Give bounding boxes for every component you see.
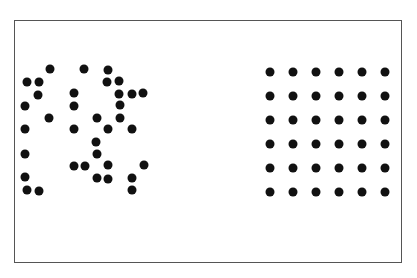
grid-dot [335, 164, 344, 173]
grid-dot [312, 164, 321, 173]
grid-dot [312, 140, 321, 149]
grid-dot [335, 68, 344, 77]
grid-dot [266, 140, 275, 149]
grid-dot [312, 92, 321, 101]
grid-dot [335, 188, 344, 197]
grid-dot [358, 188, 367, 197]
grid-dot [266, 92, 275, 101]
grid-dot [358, 92, 367, 101]
grid-dot [289, 140, 298, 149]
grid-dot [312, 68, 321, 77]
grid-dot [266, 164, 275, 173]
grid-dot [381, 116, 390, 125]
grid-dot [381, 68, 390, 77]
grid-dot [381, 164, 390, 173]
grid-dot [381, 92, 390, 101]
grid-dot [358, 140, 367, 149]
grid-dot [289, 92, 298, 101]
grid-dot [266, 68, 275, 77]
grid-dot [358, 68, 367, 77]
grid-dot [335, 92, 344, 101]
grid-dot [289, 116, 298, 125]
grid-dot [381, 188, 390, 197]
grid-dot [266, 188, 275, 197]
grid-dot [335, 140, 344, 149]
grid-dot [335, 116, 344, 125]
grid-dot [358, 116, 367, 125]
regular-dot-grid [0, 0, 417, 278]
grid-dot [289, 164, 298, 173]
grid-dot [381, 140, 390, 149]
grid-dot [312, 116, 321, 125]
grid-dot [312, 188, 321, 197]
grid-dot [289, 68, 298, 77]
grid-dot [266, 116, 275, 125]
grid-dot [358, 164, 367, 173]
grid-dot [289, 188, 298, 197]
